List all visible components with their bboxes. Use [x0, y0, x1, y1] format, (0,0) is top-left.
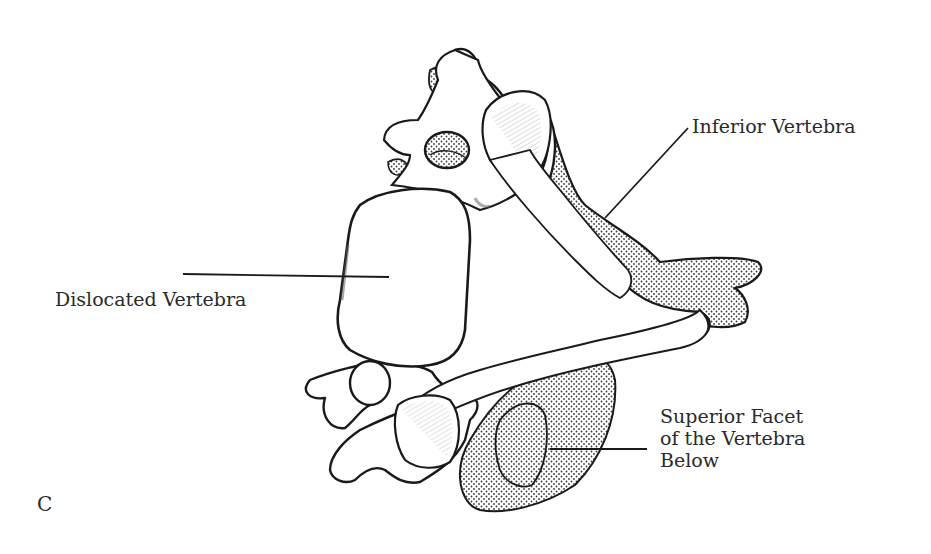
label-superior-facet-line2: of the Vertebra — [660, 427, 805, 449]
panel-letter: C — [37, 493, 52, 515]
label-superior-facet-line1: Superior Facet — [660, 405, 805, 427]
label-superior-facet: Superior Facet of the Vertebra Below — [660, 405, 805, 471]
label-inferior-vertebra: Inferior Vertebra — [692, 115, 856, 137]
inferior-vertebra-leader — [605, 128, 688, 218]
label-dislocated-vertebra: Dislocated Vertebra — [55, 288, 246, 310]
label-superior-facet-line3: Below — [660, 449, 805, 471]
